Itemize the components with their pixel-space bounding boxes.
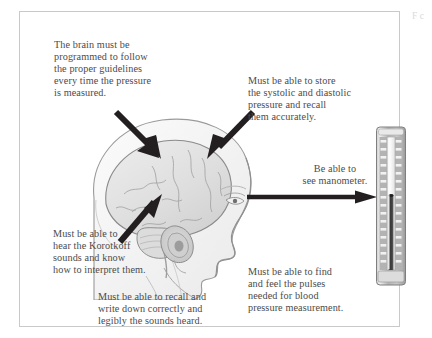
manometer-top-cap (379, 129, 404, 135)
manometer-tube-highlight (388, 138, 390, 269)
annotation-brain-programming: The brain must be programmed to follow t… (54, 39, 184, 99)
arrow-to-manometer-icon (247, 190, 377, 204)
arrow-to-left-brain-icon (115, 111, 175, 161)
mercury-column-manometer (375, 125, 407, 287)
figure-frame: The brain must be programmed to follow t… (19, 11, 400, 327)
annotation-recall-and-write-down: Must be able to recall and write down co… (98, 291, 253, 327)
figure-page: F c (0, 0, 432, 338)
arrow-to-right-brain-icon (195, 111, 255, 161)
annotation-see-manometer: Be able to see manometer. (280, 163, 390, 187)
annotation-find-and-feel-pulses: Must be able to find and feel the pulses… (248, 266, 388, 314)
annotation-store-and-recall-pressures: Must be able to store the systolic and d… (248, 75, 383, 123)
annotation-hear-korotkoff-sounds: Must be able to hear the Korotkoff sound… (53, 228, 183, 276)
clipped-caption-fragment: F c (412, 10, 432, 22)
